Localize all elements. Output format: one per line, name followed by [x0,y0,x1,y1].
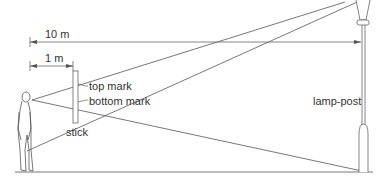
label-1m: 1 m [45,52,63,64]
label-stick: stick [66,126,88,138]
arrowhead-left-1m [30,64,37,68]
label-10m: 10 m [45,28,69,40]
person-icon [18,92,33,171]
sight-line-top-2 [32,2,345,100]
leader-bottom-mark [78,100,88,102]
stick-shape [73,71,78,123]
arrowhead-right-10m [354,40,361,44]
label-bottom-mark: bottom mark [89,95,150,107]
lamp-post-icon [356,0,370,172]
label-lamp-post: lamp-post [313,95,361,107]
label-top-mark: top mark [89,80,132,92]
arrowhead-right-1m [66,64,73,68]
arrowhead-left-10m [30,40,37,44]
